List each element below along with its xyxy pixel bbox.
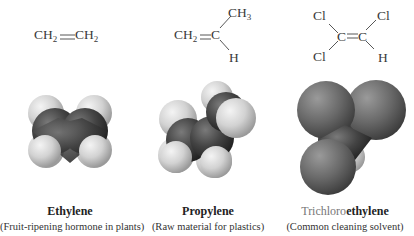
ethylene-model	[28, 95, 112, 168]
molecule-name: Propylene	[182, 204, 234, 218]
space-filling-models	[0, 0, 414, 236]
description-text: (Fruit-ripening hormone in plants)	[0, 221, 144, 232]
propylene-description: (Raw material for plastics)	[140, 221, 276, 232]
name-suffix: ethylene	[346, 204, 389, 218]
ethylene-name: Ethylene	[0, 204, 140, 219]
description-text: (Common cleaning solvent)	[286, 221, 403, 232]
description-text: (Raw material for plastics)	[152, 221, 264, 232]
molecule-name: Ethylene	[47, 204, 92, 218]
ethylene-description: (Fruit-ripening hormone in plants)	[0, 221, 140, 232]
trichloroethylene-name: Trichloroethylene	[276, 204, 414, 219]
trichloroethylene-model	[297, 80, 406, 195]
name-prefix: Trichloro	[301, 204, 346, 218]
trichloroethylene-description: (Common cleaning solvent)	[276, 221, 414, 232]
propylene-model	[158, 81, 256, 178]
propylene-name: Propylene	[140, 204, 276, 219]
